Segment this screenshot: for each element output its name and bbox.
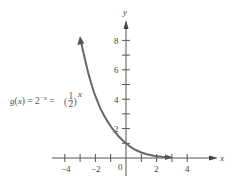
y-axis: 2 4 6 8 y: [114, 7, 130, 176]
curve-arrow-up-icon: [77, 36, 84, 45]
x-tick-label: −2: [91, 164, 101, 174]
svg-text:): ): [74, 97, 77, 108]
y-axis-label: y: [122, 7, 127, 17]
x-tick-label: 0: [118, 162, 123, 172]
svg-text:x: x: [77, 89, 82, 99]
y-tick-label: 4: [114, 95, 119, 105]
x-axis-arrow-icon: [209, 156, 218, 161]
equation-label: g(x) = 2−x = ( 1 2 ) x: [10, 89, 82, 109]
x-tick-label: 4: [185, 164, 190, 174]
x-tick-label: 2: [154, 164, 159, 174]
x-axis-label: x: [219, 153, 224, 163]
svg-text:g(x) = 2−x =: g(x) = 2−x =: [10, 94, 55, 107]
chart-canvas: −4 −2 0 2 4 x 2 4 6 8 y: [0, 0, 233, 185]
y-tick-label: 8: [114, 36, 119, 46]
y-tick-label: 6: [114, 65, 119, 75]
y-axis-arrow-icon: [124, 20, 129, 29]
x-axis: −4 −2 0 2 4 x: [52, 153, 224, 174]
svg-text:(: (: [64, 97, 67, 108]
x-tick-label: −4: [61, 164, 71, 174]
